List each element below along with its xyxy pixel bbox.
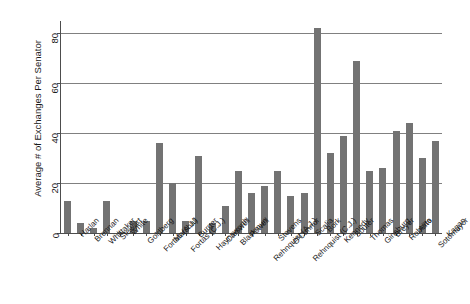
bar-slot — [206, 21, 219, 233]
bar-slot — [324, 21, 337, 233]
y-axis-tick-label: 60 — [50, 83, 61, 94]
bar — [274, 171, 281, 233]
bar-slot — [114, 21, 127, 233]
bar-slot — [284, 21, 297, 233]
bar-slot — [403, 21, 416, 233]
bar-slot — [311, 21, 324, 233]
bar-slot — [258, 21, 271, 233]
y-axis-tick-label: 20 — [50, 183, 61, 194]
bar — [432, 141, 439, 233]
bar-slot — [376, 21, 389, 233]
bar-slot — [153, 21, 166, 233]
bar-series — [61, 21, 442, 233]
bar-slot — [416, 21, 429, 233]
x-axis-tick — [146, 233, 147, 236]
y-axis-tick-label: 0 — [50, 233, 61, 238]
bar-slot — [271, 21, 284, 233]
x-axis-tick — [68, 233, 69, 236]
bar-slot — [363, 21, 376, 233]
y-axis-tick-label: 80 — [50, 33, 61, 44]
bar-slot — [100, 21, 113, 233]
bar — [353, 61, 360, 233]
bar-slot — [350, 21, 363, 233]
bar-slot — [74, 21, 87, 233]
bar-slot — [219, 21, 232, 233]
bar-slot — [179, 21, 192, 233]
bar-slot — [166, 21, 179, 233]
bar — [340, 136, 347, 233]
bar-slot — [232, 21, 245, 233]
plot-inner: 020406080 — [61, 21, 442, 233]
y-axis-tick-label: 40 — [50, 133, 61, 144]
bar-slot — [429, 21, 442, 233]
bar — [156, 143, 163, 233]
bar-slot — [140, 21, 153, 233]
bar — [64, 201, 71, 233]
y-axis-title: Average # of Exchanges Per Senator — [32, 19, 43, 219]
bar-slot — [389, 21, 402, 233]
bar-slot — [337, 21, 350, 233]
plot-area: 020406080 — [60, 21, 442, 233]
bar-slot — [127, 21, 140, 233]
x-axis-tick — [435, 233, 436, 236]
bar — [393, 131, 400, 233]
bar-slot — [87, 21, 100, 233]
bar — [314, 28, 321, 233]
bar-slot — [61, 21, 74, 233]
bar-slot — [297, 21, 310, 233]
x-axis-tick — [265, 233, 266, 236]
bar-slot — [245, 21, 258, 233]
bar-slot — [192, 21, 205, 233]
